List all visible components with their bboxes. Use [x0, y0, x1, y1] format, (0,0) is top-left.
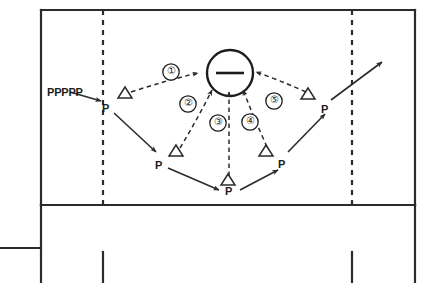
drill-diagram-canvas: PPPPP P P P P P ① ② ③ ④ ⑤ [0, 0, 423, 283]
run-arrow-p5-exit [331, 62, 382, 100]
step-label-2: ② [181, 98, 196, 108]
cone-icon-1 [118, 87, 132, 98]
step-label-5: ⑤ [267, 95, 282, 105]
player-marker-p2: P [155, 160, 162, 171]
player-marker-p4: P [278, 159, 285, 170]
cone-icon-5 [301, 88, 315, 99]
player-marker-p5: P [321, 104, 328, 115]
run-arrow-p2-p3 [168, 168, 219, 190]
player-queue-label: PPPPP [47, 86, 83, 98]
cone-icon-4 [259, 145, 273, 156]
step-label-3: ③ [211, 117, 226, 127]
cone-markers [118, 87, 315, 185]
run-arrow-p3-p4 [240, 170, 278, 190]
step-label-4: ④ [243, 116, 258, 126]
diagram-vector-layer [0, 0, 423, 283]
player-marker-p3: P [225, 186, 232, 197]
step-label-1: ① [164, 66, 179, 76]
pass-arrow-5 [256, 72, 306, 92]
run-arrow-p1-p2 [114, 113, 156, 152]
bottom-tick-marks [103, 252, 352, 283]
player-marker-p1: P [102, 103, 109, 114]
ball-circle-group [207, 50, 253, 96]
run-arrow-p4-p5 [288, 114, 325, 152]
cone-icon-3 [221, 174, 235, 185]
